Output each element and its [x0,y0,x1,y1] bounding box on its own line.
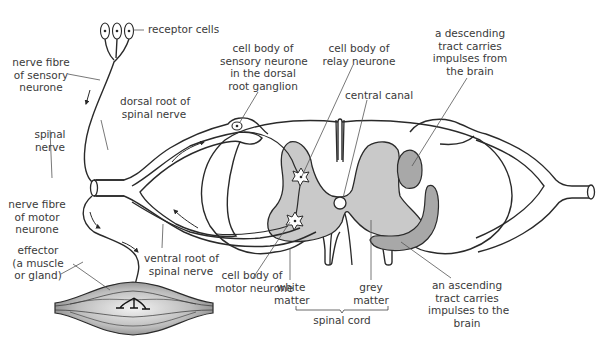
label-central-canal: central canal [345,89,413,102]
label-grey-matter: grey matter [352,281,390,306]
label-spinal-nerve: spinal nerve [28,128,72,153]
label-cell-body-relay: cell body of relay neurone [320,42,398,67]
sensory-cell-body-icon [232,122,242,130]
effector-muscle [55,282,213,335]
spinal-nerve-cut-end-right [588,185,595,199]
label-descending-tract: a descending tract carries impulses from… [432,27,508,77]
label-dorsal-root: dorsal root of spinal nerve [120,95,188,120]
dorsal-fissure [336,120,344,162]
label-white-matter: white matter [274,281,308,306]
label-cell-body-sensory: cell body of sensory neurone in the dors… [220,42,306,92]
arrow-sensory-icon [86,90,90,104]
label-effector: effector (a muscle or gland) [10,244,66,282]
label-receptor-cells: receptor cells [148,23,219,36]
label-ascending-tract: an ascending tract carries impulses to t… [428,279,506,329]
arrow-dorsal-icon [172,142,204,162]
right-spinal-nerve [410,119,590,252]
receptor-cells [101,23,134,39]
arrow-motor-icon [90,212,100,228]
label-nerve-fibre-motor: nerve fibre of motor neurone [6,198,68,236]
label-spinal-cord: spinal cord [312,314,372,327]
label-nerve-fibre-sensory: nerve fibre of sensory neurone [10,56,72,94]
label-ventral-root: ventral root of spinal nerve [144,252,218,277]
central-canal [334,197,346,209]
